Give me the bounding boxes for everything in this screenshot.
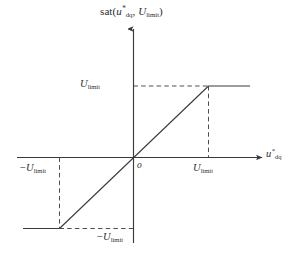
x-tick-negative-subscript: limit — [34, 167, 46, 174]
y-axis-label-arg2-subscript: limit — [146, 11, 159, 18]
x-tick-label-positive: Ulimit — [193, 163, 213, 174]
y-tick-positive-base: U — [80, 78, 88, 89]
y-axis-label-function: sat — [100, 5, 113, 17]
x-tick-positive-subscript: limit — [201, 167, 213, 174]
y-axis-label: sat(u*dq, Ulimit) — [100, 6, 163, 17]
y-axis-label-comma: , — [132, 5, 135, 17]
x-tick-label-negative: −Ulimit — [20, 163, 46, 174]
origin-label: o — [137, 161, 142, 171]
y-tick-negative-base: U — [103, 231, 111, 242]
x-axis-label-base: u — [266, 148, 271, 159]
y-tick-negative-subscript: limit — [111, 236, 123, 243]
x-axis-label: u*dq — [266, 149, 281, 160]
y-axis-label-arg2-base: U — [138, 5, 146, 17]
x-tick-negative-base: U — [26, 162, 34, 173]
y-axis-label-arg1-subscript: dq — [126, 11, 133, 18]
plot-canvas — [0, 0, 290, 260]
x-axis-label-subscript: dq — [275, 153, 282, 160]
y-tick-label-negative: −Ulimit — [97, 232, 123, 243]
y-tick-positive-subscript: limit — [88, 83, 100, 90]
x-tick-positive-base: U — [193, 162, 201, 173]
y-axis-label-close-paren: ) — [159, 5, 163, 17]
saturation-function-figure: sat(u*dq, Ulimit) u*dq Ulimit −Ulimit Ul… — [0, 0, 290, 260]
y-tick-label-positive: Ulimit — [80, 79, 100, 90]
